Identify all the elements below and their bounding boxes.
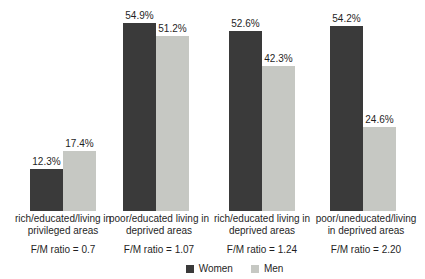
category-label-line2: deprived areas xyxy=(207,225,317,237)
bar-col-men-1: 17.4% xyxy=(63,138,96,211)
bar-col-women-3: 52.6% xyxy=(229,18,262,211)
bar-men-2 xyxy=(156,36,189,211)
category-label-line1: poor/uneducated/living xyxy=(311,213,421,225)
category-label-line1: poor/educated living in xyxy=(104,213,214,225)
men-swatch-icon xyxy=(251,265,259,273)
bar-women-2 xyxy=(123,23,156,211)
ratio-label-2: F/M ratio = 1.07 xyxy=(104,244,214,256)
bar-col-men-3: 42.3% xyxy=(262,53,295,211)
bar-col-men-2: 51.2% xyxy=(156,23,189,211)
bar-group-2: 54.9% 51.2% xyxy=(123,0,189,211)
category-caption-4: poor/uneducated/living in deprived areas… xyxy=(311,213,421,256)
bar-men-4 xyxy=(363,127,396,211)
category-label-line1: rich/educated living in xyxy=(207,213,317,225)
bar-women-3 xyxy=(229,31,262,211)
ratio-label-3: F/M ratio = 1.24 xyxy=(207,244,317,256)
bar-men-3 xyxy=(262,66,295,211)
category-label-line2: in deprived areas xyxy=(311,225,421,237)
bar-col-women-2: 54.9% xyxy=(123,10,156,211)
bar-women-1 xyxy=(30,169,63,211)
value-label-women-3: 52.6% xyxy=(231,18,259,29)
bar-col-women-4: 54.2% xyxy=(330,13,363,211)
legend-item-women: Women xyxy=(186,263,233,274)
category-caption-3: rich/educated living in deprived areas F… xyxy=(207,213,317,256)
bar-group-4: 54.2% 24.6% xyxy=(330,0,396,211)
category-caption-2: poor/educated living in deprived areas F… xyxy=(104,213,214,256)
category-label-line2: privileged areas xyxy=(8,225,118,237)
category-caption-1: rich/educated/living in privileged areas… xyxy=(8,213,118,256)
ratio-label-4: F/M ratio = 2.20 xyxy=(311,244,421,256)
women-swatch-icon xyxy=(186,265,194,273)
value-label-women-2: 54.9% xyxy=(125,10,153,21)
bar-women-4 xyxy=(330,26,363,211)
value-label-men-1: 17.4% xyxy=(65,138,93,149)
legend-label-women: Women xyxy=(199,263,233,274)
bar-group-1: 12.3% 17.4% xyxy=(30,0,96,211)
category-label-line1: rich/educated/living in xyxy=(8,213,118,225)
legend-label-men: Men xyxy=(264,263,283,274)
value-label-men-2: 51.2% xyxy=(158,23,186,34)
bar-col-men-4: 24.6% xyxy=(363,114,396,211)
bar-chart: 12.3% 17.4% 54.9% 51.2% 52.6% 42.3% xyxy=(0,0,425,279)
bar-group-3: 52.6% 42.3% xyxy=(229,0,295,211)
legend: Women Men xyxy=(0,263,425,274)
bar-men-1 xyxy=(63,151,96,211)
value-label-men-4: 24.6% xyxy=(365,114,393,125)
ratio-label-1: F/M ratio = 0.7 xyxy=(8,244,118,256)
value-label-women-4: 54.2% xyxy=(332,13,360,24)
bar-col-women-1: 12.3% xyxy=(30,156,63,211)
legend-item-men: Men xyxy=(251,263,283,274)
category-label-line2: deprived areas xyxy=(104,225,214,237)
value-label-men-3: 42.3% xyxy=(264,53,292,64)
value-label-women-1: 12.3% xyxy=(32,156,60,167)
